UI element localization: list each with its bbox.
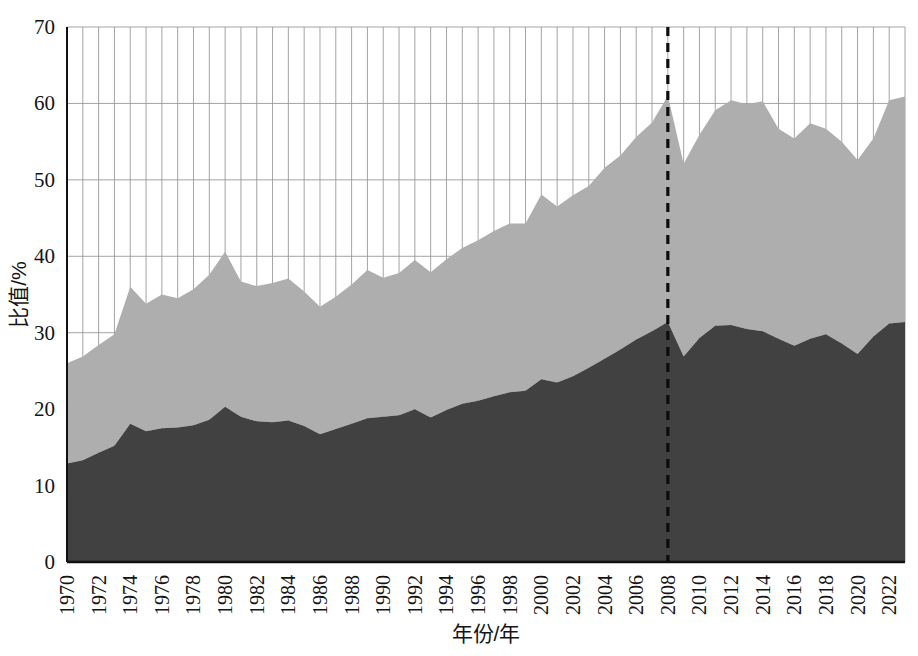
y-tick-label-10: 10 [34,474,55,498]
x-tick-label-2004: 2004 [594,575,616,615]
x-tick-label-1980: 1980 [214,575,236,615]
y-tick-label-60: 60 [34,91,55,115]
x-tick-label-1992: 1992 [404,575,426,615]
chart-figure: 010203040506070 197019721974197619781980… [0,0,918,656]
x-tick-label-1998: 1998 [499,575,521,615]
x-tick-label-2010: 2010 [688,575,710,615]
x-tick-label-1990: 1990 [372,575,394,615]
x-tick-label-2016: 2016 [783,575,805,615]
x-tick-label-2008: 2008 [657,575,679,615]
x-tick-label-1994: 1994 [435,575,457,615]
x-tick-label-1974: 1974 [119,575,141,615]
x-tick-label-1996: 1996 [467,575,489,615]
x-axis-title: 年份/年 [452,622,521,645]
y-tick-label-70: 70 [34,15,55,39]
x-tick-label-2000: 2000 [530,575,552,615]
y-tick-label-30: 30 [34,321,55,345]
x-tick-label-1972: 1972 [88,575,110,615]
x-tick-label-1984: 1984 [277,575,299,615]
x-axis-tick-labels: 1970197219741976197819801982198419861988… [56,575,900,615]
y-tick-label-20: 20 [34,397,55,421]
x-tick-label-1982: 1982 [246,575,268,615]
x-tick-label-2012: 2012 [720,575,742,615]
x-tick-label-1988: 1988 [341,575,363,615]
y-tick-label-50: 50 [34,168,55,192]
x-tick-label-2014: 2014 [752,575,774,615]
x-tick-label-2022: 2022 [878,575,900,615]
x-tick-label-1970: 1970 [56,575,78,615]
stacked-area-chart: 010203040506070 197019721974197619781980… [0,0,918,656]
x-tick-label-1976: 1976 [151,575,173,615]
y-axis-title: 比值/% [7,261,30,328]
x-tick-label-1978: 1978 [182,575,204,615]
x-tick-label-2006: 2006 [625,575,647,615]
y-tick-label-0: 0 [45,550,56,574]
x-tick-label-1986: 1986 [309,575,331,615]
x-tick-label-2002: 2002 [562,575,584,615]
y-tick-label-40: 40 [34,244,55,268]
x-tick-label-2020: 2020 [847,575,869,615]
x-tick-label-2018: 2018 [815,575,837,615]
